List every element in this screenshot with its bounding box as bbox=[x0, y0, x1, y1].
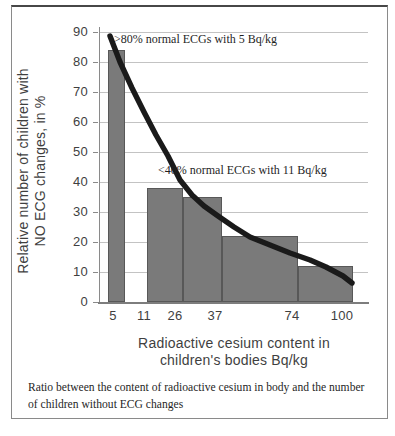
xtick-label-37: 37 bbox=[207, 308, 222, 323]
ytick-mark-0 bbox=[93, 302, 98, 303]
ytick-mark-70 bbox=[93, 92, 98, 93]
figure-page: Relative number of children with NO ECG … bbox=[0, 0, 395, 436]
ytick-mark-20 bbox=[93, 242, 98, 243]
y-axis-title-line1: Relative number of children with bbox=[15, 68, 32, 274]
ytick-label-40: 40 bbox=[48, 174, 88, 190]
xtick-label-11: 11 bbox=[137, 308, 151, 323]
ytick-mark-40 bbox=[93, 182, 98, 183]
xtick-label-26: 26 bbox=[167, 308, 182, 323]
ytick-mark-80 bbox=[93, 62, 98, 63]
x-axis-title-line1: Radioactive cesium content in bbox=[100, 335, 368, 352]
ytick-label-80: 80 bbox=[48, 54, 88, 70]
ytick-label-50: 50 bbox=[48, 144, 88, 160]
plot-area: >80% normal ECGs with 5 Bq/kg <40% norma… bbox=[100, 32, 368, 302]
ytick-label-10: 10 bbox=[48, 264, 88, 280]
ytick-mark-50 bbox=[93, 152, 98, 153]
xtick-label-100: 100 bbox=[331, 308, 354, 323]
annotation-high-ecg: >80% normal ECGs with 5 Bq/kg bbox=[114, 32, 277, 47]
ytick-mark-10 bbox=[93, 272, 98, 273]
x-axis-line bbox=[98, 302, 369, 304]
figure-caption-line2: of children without ECG changes bbox=[28, 397, 364, 414]
x-axis-title-line2: children's bodies Bq/kg bbox=[100, 352, 368, 369]
figure-caption-line1: Ratio between the content of radioactive… bbox=[28, 380, 364, 397]
ytick-mark-60 bbox=[93, 122, 98, 123]
figure-caption: Ratio between the content of radioactive… bbox=[28, 380, 364, 413]
ytick-label-20: 20 bbox=[48, 234, 88, 250]
ytick-label-0: 0 bbox=[48, 294, 88, 310]
ytick-label-30: 30 bbox=[48, 204, 88, 220]
y-axis-title-line2: NO ECG changes, in % bbox=[31, 68, 48, 274]
ytick-label-70: 70 bbox=[48, 84, 88, 100]
ytick-mark-30 bbox=[93, 212, 98, 213]
ytick-label-60: 60 bbox=[48, 114, 88, 130]
xtick-label-74: 74 bbox=[284, 308, 299, 323]
annotation-low-ecg: <40% normal ECGs with 11 Bq/kg bbox=[158, 163, 327, 178]
x-axis-title: Radioactive cesium content in children's… bbox=[100, 335, 368, 369]
y-axis-title: Relative number of children with NO ECG … bbox=[15, 68, 48, 274]
ytick-label-90: 90 bbox=[48, 24, 88, 40]
trend-curve-line bbox=[110, 36, 352, 283]
ytick-mark-90 bbox=[93, 32, 98, 33]
xtick-label-5: 5 bbox=[109, 308, 117, 323]
